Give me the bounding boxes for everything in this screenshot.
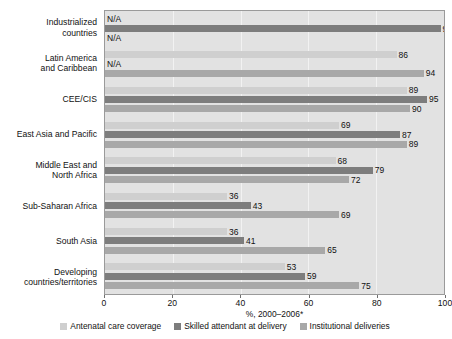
bar: [105, 87, 407, 94]
bar-group: 535975: [105, 259, 444, 294]
legend-item[interactable]: Skilled attendant at delivery: [174, 321, 286, 331]
bar-row: 69: [105, 211, 444, 218]
category-label: Latin Americaand Caribbean: [0, 46, 100, 82]
category-label: Sub-Saharan Africa: [0, 188, 100, 224]
bar: [105, 96, 427, 103]
plot-area: N/A99N/A86N/A948995906987896879723643693…: [104, 10, 445, 295]
bar-value-label: 90: [410, 105, 421, 114]
bar-row: 89: [105, 87, 444, 94]
category-label-line: North Africa: [35, 170, 97, 180]
bar: [105, 202, 251, 209]
bar-groups: N/A99N/A86N/A948995906987896879723643693…: [105, 11, 444, 294]
bar-row: 90: [105, 105, 444, 112]
bar-row: 53: [105, 263, 444, 270]
category-label: East Asia and Pacific: [0, 117, 100, 153]
bar-value-label: 59: [305, 272, 316, 281]
na-label: N/A: [107, 15, 121, 24]
x-axis-tick-label: 80: [372, 299, 382, 308]
bar-value-label: 89: [407, 86, 418, 95]
x-axis-tick-label: 100: [438, 299, 452, 308]
legend-item[interactable]: Institutional deliveries: [300, 321, 390, 331]
bar-value-label: 53: [285, 263, 296, 272]
bar-value-label: 89: [407, 140, 418, 149]
bar-row: 72: [105, 176, 444, 183]
bar-value-label: 72: [349, 175, 360, 184]
category-label-line: Latin America: [41, 53, 97, 63]
category-label: Middle East andNorth Africa: [0, 153, 100, 189]
category-label-line: Developing: [24, 267, 97, 277]
bar: [105, 273, 305, 280]
bar-group: 86N/A94: [105, 46, 444, 81]
category-label-line: and Caribbean: [41, 63, 97, 73]
bar-row: N/A: [105, 61, 444, 68]
x-axis-tick-label: 0: [102, 299, 107, 308]
bar-row: 99: [105, 25, 444, 32]
bar-row: 89: [105, 141, 444, 148]
bar-value-label: 36: [227, 192, 238, 201]
bar-value-label: 94: [424, 69, 435, 78]
bar-value-label: 95: [427, 95, 438, 104]
bar-row: 59: [105, 273, 444, 280]
category-label-line: East Asia and Pacific: [17, 129, 97, 139]
bar-row: N/A: [105, 35, 444, 42]
bar-row: 43: [105, 202, 444, 209]
x-axis-title: %, 2000–2006*: [104, 309, 445, 319]
x-axis-tick-label: 40: [236, 299, 246, 308]
bar: [105, 263, 285, 270]
category-label: South Asia: [0, 224, 100, 260]
bar-group: N/A99N/A: [105, 11, 444, 46]
bar: [105, 228, 227, 235]
chart-legend: Antenatal care coverageSkilled attendant…: [0, 321, 450, 331]
legend-swatch: [300, 323, 307, 330]
bar: [105, 157, 336, 164]
bar-group: 899590: [105, 82, 444, 117]
category-label-line: Industrialized: [46, 17, 97, 27]
category-label-line: CEE/CIS: [63, 94, 97, 104]
bar-value-label: 68: [336, 157, 347, 166]
na-label: N/A: [107, 34, 121, 43]
bar-row: 69: [105, 122, 444, 129]
bar: [105, 211, 339, 218]
bar-group: 698789: [105, 117, 444, 152]
category-label: Developingcountries/territories: [0, 259, 100, 295]
bar-row: 68: [105, 157, 444, 164]
bar-row: 41: [105, 237, 444, 244]
legend-label: Antenatal care coverage: [70, 321, 161, 331]
category-label-line: Middle East and: [35, 160, 97, 170]
legend-swatch: [60, 323, 67, 330]
category-label-line: countries: [46, 28, 97, 38]
bar-row: 79: [105, 167, 444, 174]
category-label: CEE/CIS: [0, 81, 100, 117]
legend-swatch: [174, 323, 181, 330]
category-label-line: South Asia: [56, 236, 97, 246]
bar-row: 36: [105, 193, 444, 200]
bar-row: 65: [105, 247, 444, 254]
bar-value-label: 99: [441, 24, 445, 33]
bar-row: 36: [105, 228, 444, 235]
bar-value-label: 69: [339, 121, 350, 130]
bar: [105, 51, 397, 58]
bar-row: 75: [105, 282, 444, 289]
category-label-line: countries/territories: [24, 277, 97, 287]
bar-value-label: 41: [244, 237, 255, 246]
bar: [105, 70, 424, 77]
bar-group: 364369: [105, 188, 444, 223]
bar-value-label: 87: [400, 131, 411, 140]
bar: [105, 237, 244, 244]
na-label: N/A: [107, 60, 121, 69]
bar: [105, 247, 325, 254]
bar-group: 364165: [105, 223, 444, 258]
bar-value-label: 79: [373, 166, 384, 175]
bar: [105, 167, 373, 174]
legend-label: Skilled attendant at delivery: [184, 321, 286, 331]
bar: [105, 105, 410, 112]
bar-row: 95: [105, 96, 444, 103]
bar-row: 87: [105, 131, 444, 138]
bar: [105, 25, 441, 32]
bar: [105, 131, 400, 138]
x-axis-tick-label: 20: [167, 299, 177, 308]
bar-value-label: 43: [251, 201, 262, 210]
bar-value-label: 69: [339, 211, 350, 220]
category-axis-labels: IndustrializedcountriesLatin Americaand …: [0, 10, 100, 295]
legend-item[interactable]: Antenatal care coverage: [60, 321, 161, 331]
